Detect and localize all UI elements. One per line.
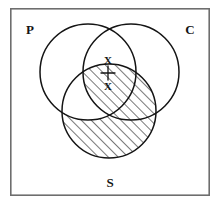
x-marker-lower: X <box>104 80 112 92</box>
venn-diagram-figure: X X P C S <box>0 0 224 208</box>
set-label-c: C <box>185 22 194 37</box>
set-label-s: S <box>106 175 113 190</box>
set-label-p: P <box>26 22 34 37</box>
venn-diagram-canvas: X X P C S <box>0 0 224 208</box>
x-marker-upper: X <box>104 54 112 66</box>
